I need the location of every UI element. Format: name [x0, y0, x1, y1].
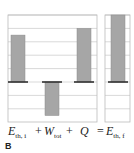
label-eth-i: Eth, i — [8, 124, 26, 140]
label-q: Q — [80, 124, 89, 139]
operator-plus-1: + — [35, 124, 42, 139]
operator-plus-2: + — [66, 124, 73, 139]
bar-w-tot — [45, 82, 59, 116]
panel-letter: B — [5, 141, 12, 151]
label-w-tot: Wtot — [44, 124, 61, 140]
bar-q — [77, 28, 91, 82]
bar-e-th-i — [11, 35, 25, 82]
label-eth-f: Eth, f — [106, 124, 125, 140]
operator-equals: = — [97, 124, 104, 139]
bar-e-th-f — [111, 15, 125, 82]
